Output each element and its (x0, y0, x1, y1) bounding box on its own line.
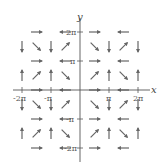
vector-arrow-ne (33, 72, 41, 80)
vector-arrow-se (120, 130, 128, 138)
vector-arrow-ne (62, 43, 70, 51)
x-axis-label: x (151, 84, 157, 95)
x-tick-label: -π (44, 94, 52, 103)
vector-arrow-se (91, 101, 99, 109)
vector-arrow-se (91, 43, 99, 51)
vector-arrow-se (120, 72, 128, 80)
vector-arrow-ne (91, 72, 99, 80)
vector-arrow-ne (120, 43, 128, 51)
vector-arrow-ne (120, 101, 128, 109)
x-tick-label: π (106, 94, 111, 103)
vector-arrow-se (62, 72, 70, 80)
x-tick-label: -2π (13, 94, 26, 103)
y-tick-label: -2π (64, 144, 77, 153)
vector-arrow-se (62, 130, 70, 138)
x-tick-label: 2π (133, 94, 143, 103)
y-tick-label: 2π (66, 28, 76, 37)
y-tick-label: π (70, 57, 75, 66)
y-axis-label: y (76, 11, 83, 22)
vector-field-plot: x y -2π -π π 2π 2π π -π -2π (0, 0, 164, 165)
vector-arrow-ne (33, 130, 41, 138)
y-tick-label: -π (66, 115, 74, 124)
vector-arrow-se (33, 43, 41, 51)
vector-arrow-se (33, 101, 41, 109)
vector-arrow-ne (91, 130, 99, 138)
vector-arrow-ne (62, 101, 70, 109)
